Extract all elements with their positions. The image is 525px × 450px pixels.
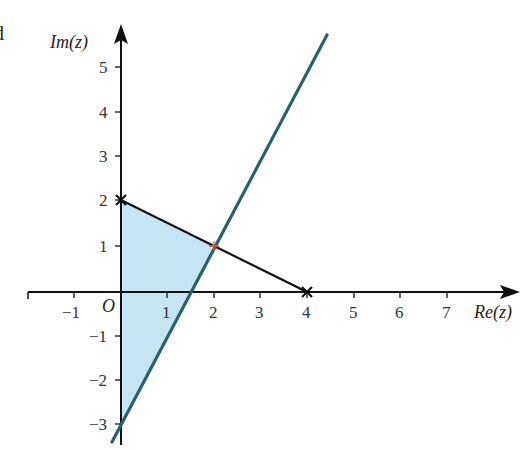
y-tick-label: −2 xyxy=(89,371,107,390)
x-tick-label: 4 xyxy=(302,303,311,322)
y-tick-label: −1 xyxy=(89,327,107,346)
x-tick-label: 5 xyxy=(349,303,358,322)
y-tick-label: 1 xyxy=(99,237,108,256)
x-tick-label: 2 xyxy=(209,303,218,322)
x-tick-label: 1 xyxy=(162,303,171,322)
x-tick-label: 6 xyxy=(395,303,404,322)
y-tick-label: 2 xyxy=(99,191,108,210)
y-tick-label: −3 xyxy=(89,415,107,434)
corner-label: d xyxy=(0,22,4,44)
origin-label: O xyxy=(102,296,115,316)
y-tick-label: 3 xyxy=(99,147,108,166)
x-tick-label: −1 xyxy=(62,303,80,322)
x-tick-label: 3 xyxy=(255,303,264,322)
x-tick-label: 7 xyxy=(442,303,451,322)
x-axis-label: Re(z) xyxy=(473,302,512,323)
y-axis-label: Im(z) xyxy=(49,32,88,53)
y-tick-label: 4 xyxy=(99,103,108,122)
argand-diagram: d −1 1 2 3 4 5 6 7 O Re(z) xyxy=(0,0,525,450)
y-tick-label: 5 xyxy=(99,58,108,77)
